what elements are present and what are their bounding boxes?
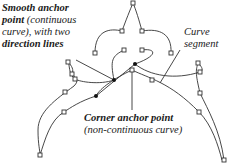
- smooth-label-line3: curve), with two: [2, 26, 70, 37]
- anchor-square: [198, 91, 202, 95]
- anchor-square: [62, 110, 66, 114]
- smooth-label-line1: Smooth anchor: [2, 2, 69, 13]
- corner-label-line2: (non-continuous curve): [84, 124, 182, 136]
- smooth-anchor-point: [112, 78, 116, 82]
- smooth-label-line4: direction lines: [2, 38, 64, 49]
- corner-anchor-square: [130, 68, 134, 72]
- anchor-square: [140, 48, 144, 52]
- anchor-square: [63, 90, 67, 94]
- anchor-square: [38, 153, 42, 157]
- anchor-square: [70, 72, 74, 76]
- curve-label-line1: Curve: [184, 26, 218, 38]
- anchor-square: [197, 110, 201, 114]
- anchor-square: [222, 158, 226, 162]
- anchor-square: [122, 48, 126, 52]
- anchor-square: [120, 29, 124, 33]
- anchor-square: [196, 61, 200, 65]
- anchor-square: [93, 51, 97, 55]
- anchor-square: [150, 78, 154, 82]
- anchor-square: [198, 70, 202, 74]
- anchor-square: [131, 1, 135, 5]
- anchor-square: [140, 29, 144, 33]
- smooth-leader: [76, 60, 114, 80]
- direction-point: [94, 94, 98, 98]
- anchor-square: [66, 60, 70, 64]
- upper-left-loop: [95, 30, 122, 53]
- corner-label-line1: Corner anchor point: [84, 112, 173, 123]
- smooth-label-line2: (continuous: [24, 14, 76, 25]
- anchor-square: [73, 77, 77, 81]
- curve-segment-label: Curve segment: [184, 26, 218, 50]
- top-spike-path: [122, 3, 142, 31]
- smooth-label-line2-bold: point: [2, 14, 24, 25]
- corner-anchor-label: Corner anchor point (non-continuous curv…: [84, 112, 182, 136]
- direction-point: [133, 62, 137, 66]
- curve-label-line2: segment: [184, 38, 218, 50]
- smooth-anchor-label: Smooth anchor point (continuous curve), …: [2, 2, 76, 50]
- anchor-square: [169, 51, 173, 55]
